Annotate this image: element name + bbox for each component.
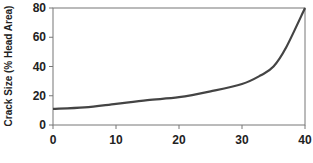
x-tick-label: 30: [235, 133, 249, 147]
y-axis-label: Crack Size (% Head Area): [3, 6, 14, 127]
y-tick-label: 20: [33, 89, 47, 103]
y-tick-label: 0: [39, 118, 46, 132]
x-tick-label: 0: [50, 133, 57, 147]
y-tick-label: 80: [33, 1, 47, 15]
x-tick-label: 20: [172, 133, 186, 147]
x-tick-label: 10: [109, 133, 123, 147]
x-tick-label: 40: [298, 133, 312, 147]
y-tick-label: 60: [33, 30, 47, 44]
crack-size-line: [53, 8, 305, 109]
y-tick-label: 40: [33, 60, 47, 74]
line-chart: 020406080010203040 Crack Size (% Head Ar…: [0, 0, 313, 163]
